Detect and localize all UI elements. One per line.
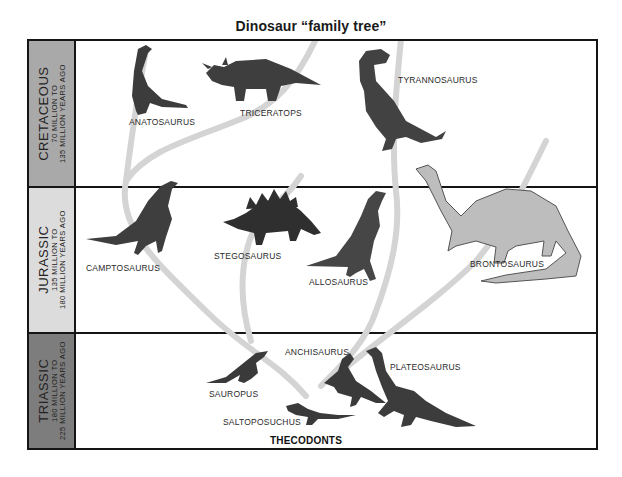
stegosaurus-figure: [223, 189, 321, 245]
label-brontosaurus: BRONTOSAURUS: [470, 259, 544, 269]
label-anchisaurus: ANCHISAURUS: [285, 347, 349, 357]
period-range-end: 135 MILLION YEARS AGO: [58, 64, 66, 163]
label-triceratops: TRICERATOPS: [240, 108, 302, 118]
label-camptosaurus: CAMPTOSAURUS: [86, 263, 160, 273]
diagram-title: Dinosaur “family tree”: [0, 18, 622, 34]
sauropus-figure: [206, 351, 268, 383]
label-saltoposuchus: SALTOPOSUCHUS: [223, 417, 301, 427]
label-sauropus: SAUROPUS: [209, 389, 258, 399]
label-allosaurus: ALLOSAURUS: [309, 277, 368, 287]
period-name: TRIASSIC: [37, 342, 51, 441]
family-tree-frame: CRETACEOUS 70 MILLION TO 135 MILLION YEA…: [27, 39, 598, 450]
period-name: CRETACEOUS: [37, 64, 51, 163]
label-plateosaurus: PLATEOSAURUS: [390, 362, 461, 372]
tyrannosaurus-figure: [359, 49, 446, 151]
period-triassic: TRIASSIC 180 MILLION TO 225 MILLION YEAR…: [29, 334, 74, 448]
tree-canvas: ANATOSAURUS TRICERATOPS TYRANNOSAURUS CA…: [76, 41, 596, 448]
allosaurus-figure: [306, 191, 386, 281]
tree-branches: [76, 41, 596, 448]
period-range-end: 225 MILLION YEARS AGO: [58, 342, 66, 441]
label-anatosaurus: ANATOSAURUS: [129, 117, 195, 127]
period-range-end: 180 MILLION YEARS AGO: [58, 211, 66, 310]
anatosaurus-figure: [132, 45, 188, 115]
label-stegosaurus: STEGOSAURUS: [214, 251, 281, 261]
period-name: JURASSIC: [37, 211, 51, 310]
label-tyrannosaurus: TYRANNOSAURUS: [398, 75, 478, 85]
period-cretaceous: CRETACEOUS 70 MILLION TO 135 MILLION YEA…: [29, 41, 74, 186]
label-thecodonts: THECODONTS: [270, 435, 342, 446]
period-column: CRETACEOUS 70 MILLION TO 135 MILLION YEA…: [29, 41, 76, 448]
period-jurassic: JURASSIC 135 MILLION TO 180 MILLION YEAR…: [29, 188, 74, 332]
plateosaurus-figure: [366, 347, 476, 427]
